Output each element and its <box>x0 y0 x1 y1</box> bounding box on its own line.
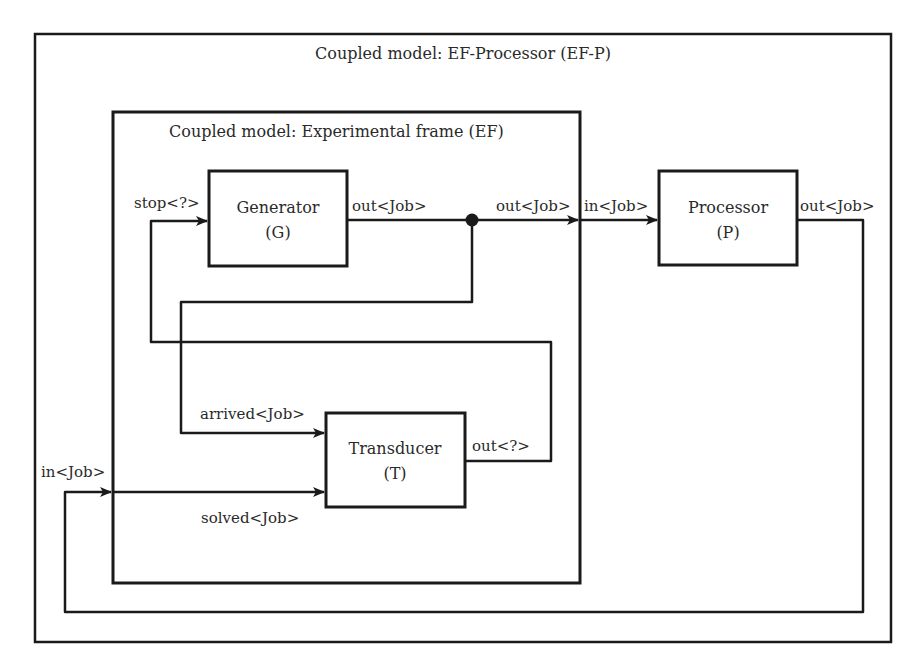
trans-arrived-port-label: arrived<Job> <box>200 405 305 423</box>
gen-stop-port-label: stop<?> <box>134 194 200 212</box>
ef-processor-diagram: Coupled model: EF-Processor (EF-P) Coupl… <box>0 0 922 672</box>
generator-block[interactable]: Generator (G) <box>209 171 347 266</box>
proc-in-port-label: in<Job> <box>584 197 648 215</box>
trans-solved-port-label: solved<Job> <box>201 509 299 527</box>
processor-label: Processor <box>688 198 769 217</box>
transducer-abbr: (T) <box>383 464 406 483</box>
coupled-model-efp-title: Coupled model: EF-Processor (EF-P) <box>315 44 611 63</box>
processor-abbr: (P) <box>716 223 739 242</box>
ef-out-port-label: out<Job> <box>496 197 571 215</box>
trans-out-to-gen-stop-wire <box>151 221 551 461</box>
experimental-frame-title: Coupled model: Experimental frame (EF) <box>169 122 504 141</box>
processor-block[interactable]: Processor (P) <box>659 171 797 265</box>
transducer-label: Transducer <box>349 439 442 458</box>
transducer-block[interactable]: Transducer (T) <box>326 413 465 507</box>
proc-out-port-label: out<Job> <box>800 197 875 215</box>
generator-abbr: (G) <box>265 223 290 242</box>
generator-label: Generator <box>237 198 320 217</box>
trans-out-port-label: out<?> <box>472 437 530 455</box>
gen-out-port-label: out<Job> <box>352 197 427 215</box>
gen-out-to-arrived-wire <box>181 220 472 433</box>
ef-in-port-label: in<Job> <box>41 463 105 481</box>
